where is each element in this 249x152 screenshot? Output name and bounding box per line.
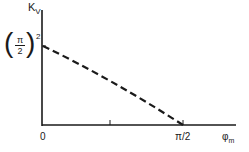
y-axis-label-sub: V: [35, 7, 40, 16]
right-paren: ): [26, 29, 35, 57]
left-paren: (: [4, 29, 13, 57]
y-tick-label: ( π 2 ) 2: [4, 31, 40, 61]
data-curve: [43, 46, 183, 125]
y-tick-denominator: 2: [15, 46, 25, 56]
origin-label: 0: [40, 132, 46, 142]
x-axis-label: φm: [222, 132, 234, 144]
y-axis-label: KV: [28, 2, 41, 16]
x-axis-label-sub: m: [228, 137, 234, 144]
y-tick-exponent: 2: [36, 32, 40, 41]
x-tick-end-label: π/2: [175, 132, 190, 142]
chart-canvas: [0, 0, 249, 152]
y-tick-numerator: π: [15, 35, 25, 45]
